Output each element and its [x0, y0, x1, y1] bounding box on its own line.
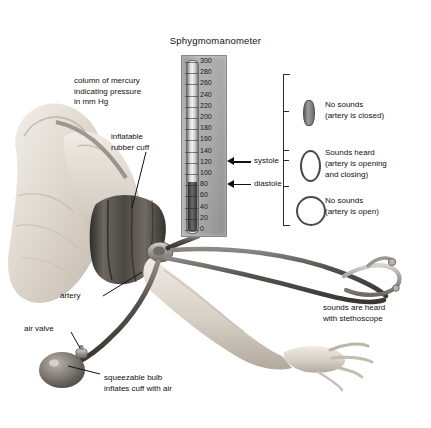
sound-state-2-detail: (artery is opening and closing)	[325, 159, 387, 180]
scale-tick-label: 140	[200, 147, 212, 155]
sound-state-1-heading: No sounds	[325, 100, 363, 111]
tube-to-manometer	[168, 236, 198, 248]
artery-partially-open-icon	[300, 150, 321, 182]
scale-tick-label: 300	[200, 57, 212, 65]
systole-label: systole	[254, 156, 279, 166]
scale-tick-label: 220	[200, 102, 212, 110]
scale-tick-label: 0	[200, 225, 204, 233]
scale-tick-label: 120	[200, 158, 212, 166]
figure-canvas: Sphygmomanometer 30028026024022020018016…	[0, 0, 431, 428]
scale-tick-label: 60	[200, 191, 208, 199]
air-valve-illustration	[76, 345, 87, 358]
scale-tick-label: 160	[200, 135, 212, 143]
air-valve-label: air valve	[24, 324, 54, 335]
sound-state-3-heading: No sounds	[325, 196, 363, 207]
artery-label: artery	[60, 291, 80, 302]
scale-tick-label: 280	[200, 68, 212, 76]
diastole-label: diastole	[254, 179, 282, 189]
figure-title: Sphygmomanometer	[0, 36, 431, 47]
cuff-label: inflatable rubber cuff	[111, 132, 149, 153]
scale-tick-label: 100	[200, 169, 212, 177]
bulb-label: squeezable bulb inflates cuff with air	[104, 373, 172, 394]
sound-range-bracket	[283, 74, 297, 226]
scale-tick-label: 80	[200, 180, 208, 188]
scale-tick-label: 180	[200, 124, 212, 132]
sound-state-1-detail: (artery is closed)	[325, 111, 384, 122]
scale-tick-label: 20	[200, 214, 208, 222]
scale-tick-label: 260	[200, 79, 212, 87]
scale-tick-label: 240	[200, 91, 212, 99]
artery-closed-icon	[303, 100, 315, 126]
artery-open-icon	[296, 196, 326, 226]
scale-tick-label: 40	[200, 203, 208, 211]
sound-state-2-heading: Sounds heard	[325, 148, 375, 159]
leader-air-valve	[71, 332, 80, 348]
manometer-panel: 3002802602402202001801601401201008060402…	[181, 55, 227, 237]
stethoscope-label: sounds are heard with stethoscope	[323, 303, 385, 324]
mercury-column-label: column of mercury indicating pressure in…	[74, 76, 141, 108]
sound-state-3-detail: (artery is open)	[325, 207, 379, 218]
scale-tick-label: 200	[200, 113, 212, 121]
